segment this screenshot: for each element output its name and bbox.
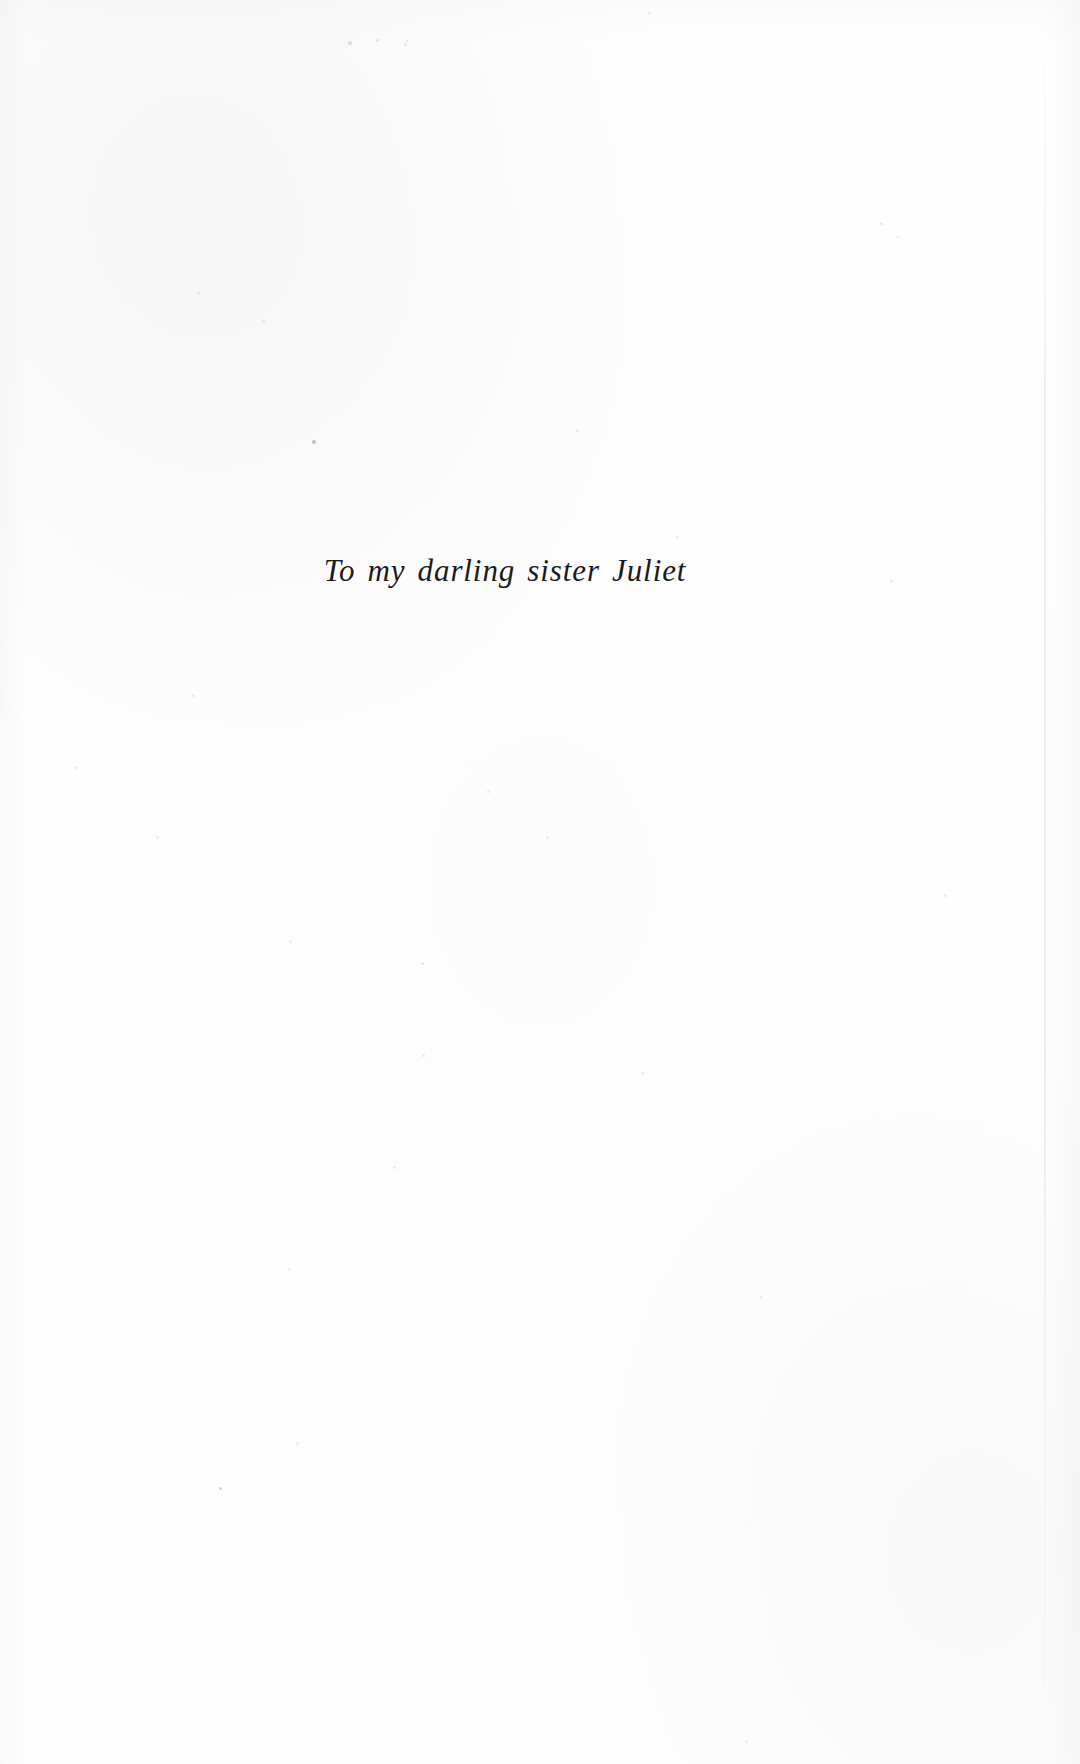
dedication-page: To my darling sister Juliet bbox=[0, 0, 1080, 1764]
dedication-text: To my darling sister Juliet bbox=[0, 552, 1080, 591]
dedication-block: To my darling sister Juliet bbox=[0, 0, 1080, 1764]
